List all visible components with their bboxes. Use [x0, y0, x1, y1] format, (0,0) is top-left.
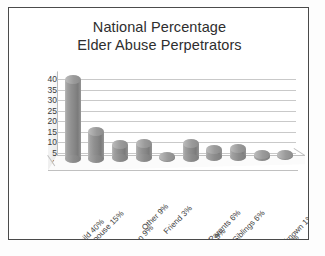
x-axis-category-labels: Adult Child 40%Spouse 15%Grandchildren 9… — [9, 8, 309, 240]
chart-frame: National Percentage Elder Abuse Perpetra… — [8, 7, 309, 240]
x-label-9: Unknown 1% — [276, 213, 309, 240]
scanned-page: National Percentage Elder Abuse Perpetra… — [0, 0, 325, 256]
